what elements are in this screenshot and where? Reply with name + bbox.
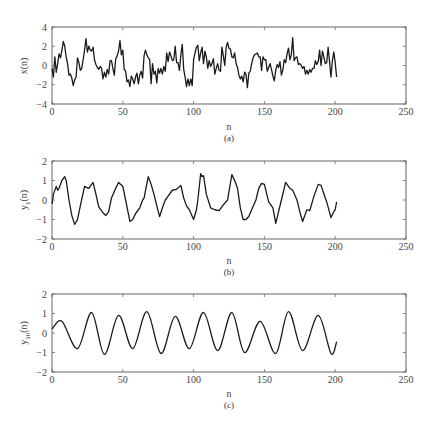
y-tick-label: 2 xyxy=(42,289,47,300)
y-tick-label: −1 xyxy=(36,347,47,358)
x-tick-label: 100 xyxy=(186,374,201,385)
y-axis-ticks: 210−1−2 xyxy=(36,156,406,245)
x-tick-label: 150 xyxy=(257,374,272,385)
plot-frame xyxy=(52,27,406,104)
y-tick-label: 2 xyxy=(42,156,47,167)
signal-trace-y1 xyxy=(52,174,337,225)
x-tick-label: 250 xyxy=(399,241,414,252)
x-tick-label: 200 xyxy=(328,374,343,385)
panel-b: 050100150200250 210−1−2 n (b) y1(n) xyxy=(18,156,414,278)
x-axis-label: n xyxy=(227,388,232,399)
x-tick-label: 200 xyxy=(328,106,343,117)
y-tick-label: 1 xyxy=(42,308,47,319)
panel-caption: (c) xyxy=(224,400,234,410)
y-axis-label-main: x(n) xyxy=(18,58,30,75)
x-axis-label: n xyxy=(227,255,232,266)
x-axis-ticks: 050100150200250 xyxy=(50,294,414,385)
panel-c: 050100150200250 210−1−2 n (c) y10(n) xyxy=(18,289,414,411)
signal-trace-y10 xyxy=(52,312,337,355)
y-axis-label-tail: (n) xyxy=(18,321,30,333)
x-tick-label: 200 xyxy=(328,241,343,252)
plot-frame xyxy=(52,294,406,372)
y-tick-label: −4 xyxy=(36,99,47,110)
x-tick-label: 250 xyxy=(399,106,414,117)
x-axis-label: n xyxy=(227,121,232,132)
panel-caption: (a) xyxy=(224,133,234,143)
panel-caption: (b) xyxy=(224,267,235,277)
y-tick-label: −2 xyxy=(36,367,47,378)
y-tick-label: 0 xyxy=(42,60,47,71)
y-tick-label: 2 xyxy=(42,41,47,52)
y-tick-label: −2 xyxy=(36,234,47,245)
x-tick-label: 150 xyxy=(257,106,272,117)
x-tick-label: 0 xyxy=(50,241,55,252)
plot-frame xyxy=(52,161,406,239)
panel-a: 050100150200250 420−2−4 n (a) x(n) xyxy=(18,22,414,144)
x-tick-label: 100 xyxy=(186,106,201,117)
signal-trace-x xyxy=(52,38,337,88)
y-axis-label: y10(n) xyxy=(18,321,32,345)
y-axis-label: x(n) xyxy=(18,58,30,75)
y-axis-label: y1(n) xyxy=(18,190,32,210)
x-tick-label: 150 xyxy=(257,241,272,252)
x-tick-label: 250 xyxy=(399,374,414,385)
x-tick-label: 50 xyxy=(118,374,128,385)
x-tick-label: 0 xyxy=(50,106,55,117)
y-axis-ticks: 210−1−2 xyxy=(36,289,406,378)
x-tick-label: 0 xyxy=(50,374,55,385)
y-tick-label: 1 xyxy=(42,175,47,186)
y-tick-label: −2 xyxy=(36,79,47,90)
y-tick-label: −1 xyxy=(36,214,47,225)
figure: 050100150200250 420−2−4 n (a) x(n) 05010… xyxy=(0,0,437,422)
x-tick-label: 50 xyxy=(118,241,128,252)
y-axis-label-tail: (n) xyxy=(18,190,30,202)
x-tick-label: 50 xyxy=(118,106,128,117)
x-tick-label: 100 xyxy=(186,241,201,252)
y-tick-label: 0 xyxy=(42,328,47,339)
y-tick-label: 4 xyxy=(42,22,47,33)
y-tick-label: 0 xyxy=(42,195,47,206)
